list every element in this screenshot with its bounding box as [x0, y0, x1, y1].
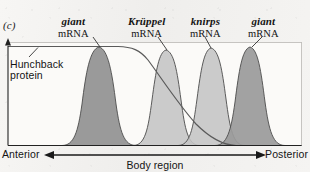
panel-letter: (c): [3, 20, 16, 32]
gene-name-giant-anterior: giant: [58, 16, 89, 28]
hunchback-protein-label: Hunchback protein: [10, 59, 63, 81]
rna-word-kruppel: mRNA: [128, 28, 165, 39]
label-giant-mrna-anterior: giant mRNA: [58, 16, 89, 39]
posterior-label: Posterior: [265, 149, 308, 160]
label-giant-mrna-posterior: giant mRNA: [248, 16, 279, 39]
gap-gene-expression-figure: (c) Hunchback protein giant mRNA Krüppel…: [0, 0, 310, 172]
rna-word-giant-posterior: mRNA: [248, 28, 279, 39]
gene-name-knirps: knirps: [190, 16, 221, 28]
arrow-head-anterior-icon: [44, 151, 54, 159]
rna-word-knirps: mRNA: [190, 28, 221, 39]
label-kruppel-mrna: Krüppel mRNA: [128, 16, 165, 39]
hunchback-protein-label-line2: protein: [10, 70, 63, 81]
gene-name-kruppel: Krüppel: [128, 16, 165, 28]
rna-word-giant-anterior: mRNA: [58, 28, 89, 39]
gene-name-giant-posterior: giant: [248, 16, 279, 28]
label-knirps-mrna: knirps mRNA: [190, 16, 221, 39]
anterior-label: Anterior: [2, 149, 40, 160]
y-axis-arrow-icon: [5, 38, 11, 46]
body-region-label: Body region: [0, 160, 310, 171]
